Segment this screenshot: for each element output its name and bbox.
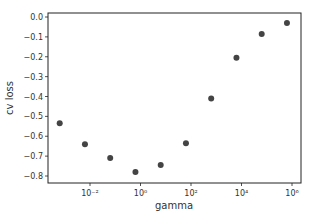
y-tick-label: −0.8 <box>24 172 43 181</box>
y-tick-label: −0.4 <box>24 93 43 102</box>
x-axis-ticks: 10⁻²10⁰10²10⁴10⁶ <box>81 183 299 198</box>
data-point <box>284 20 290 26</box>
x-tick-label: 10⁻² <box>81 189 99 198</box>
x-tick-label: 10⁴ <box>235 189 248 198</box>
y-tick-label: −0.6 <box>24 132 43 141</box>
y-tick-label: −0.3 <box>24 73 43 82</box>
data-point <box>82 141 88 147</box>
y-tick-label: −0.1 <box>24 33 43 42</box>
data-point <box>57 120 63 126</box>
y-tick-label: −0.5 <box>24 112 43 121</box>
data-point <box>132 169 138 175</box>
data-point <box>158 162 164 168</box>
data-point <box>208 95 214 101</box>
data-point <box>183 140 189 146</box>
y-tick-label: −0.7 <box>24 152 43 161</box>
x-tick-label: 10⁰ <box>134 189 147 198</box>
x-axis-label: gamma <box>155 200 193 211</box>
x-tick-label: 10⁶ <box>285 189 298 198</box>
y-axis-ticks: 0.0−0.1−0.2−0.3−0.4−0.5−0.6−0.7−0.8 <box>24 13 48 181</box>
plot-area <box>48 13 301 183</box>
data-point <box>233 55 239 61</box>
y-axis-label: cv loss <box>4 81 15 115</box>
data-point <box>259 31 265 37</box>
scatter-chart: 0.0−0.1−0.2−0.3−0.4−0.5−0.6−0.7−0.8 10⁻²… <box>0 0 309 218</box>
y-tick-label: −0.2 <box>24 53 43 62</box>
y-tick-label: 0.0 <box>30 13 43 22</box>
x-tick-label: 10² <box>184 189 197 198</box>
data-point <box>107 155 113 161</box>
